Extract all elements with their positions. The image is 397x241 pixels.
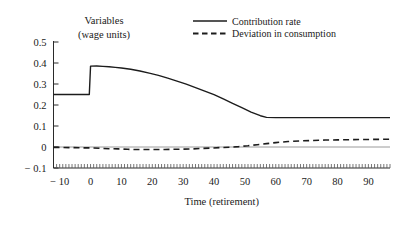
y-tick-label: 0 (41, 142, 46, 153)
x-tick-label: 10 (116, 176, 127, 187)
chart-container: − 0.100.10.20.30.40.5− 10010203040506070… (0, 0, 397, 241)
x-tick-label: 40 (209, 176, 220, 187)
y-tick-label: 0.5 (33, 37, 46, 48)
y-axis-title-line1: Variables (84, 15, 123, 26)
y-tick-label: 0.2 (33, 100, 46, 111)
x-tick-label: 60 (271, 176, 282, 187)
x-tick-label: 20 (147, 176, 158, 187)
y-tick-label: 0.1 (33, 121, 46, 132)
y-axis-title-line2: (wage units) (78, 29, 131, 41)
x-tick-label: 30 (178, 176, 189, 187)
x-tick-label: 50 (240, 176, 251, 187)
x-axis-title: Time (retirement) (184, 196, 259, 208)
legend-label-1: Contribution rate (232, 16, 301, 27)
legend-label-2: Deviation in consumption (232, 28, 336, 39)
series-line-1 (54, 66, 391, 118)
x-tick-label: 70 (301, 176, 312, 187)
y-tick-label: − 0.1 (25, 163, 47, 174)
x-tick-label: 90 (363, 176, 374, 187)
y-tick-label: 0.4 (33, 58, 47, 69)
x-tick-label: 0 (88, 176, 93, 187)
series-line-2 (54, 139, 391, 149)
x-tick-label: − 10 (50, 176, 69, 187)
x-tick-label: 80 (332, 176, 343, 187)
y-tick-label: 0.3 (33, 79, 46, 90)
line-chart: − 0.100.10.20.30.40.5− 10010203040506070… (0, 0, 397, 241)
